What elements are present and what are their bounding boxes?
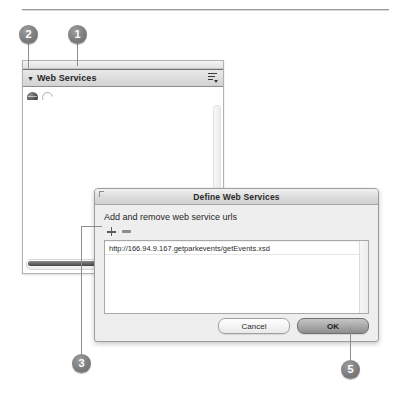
dialog-instruction-label: Add and remove web service urls bbox=[104, 212, 369, 222]
cancel-button[interactable]: Cancel bbox=[218, 318, 290, 334]
define-web-services-dialog: Define Web Services Add and remove web s… bbox=[94, 188, 379, 342]
callout-badge-1: 1 bbox=[68, 25, 87, 44]
remove-url-button[interactable] bbox=[122, 230, 131, 233]
dialog-button-row: Cancel OK bbox=[218, 318, 369, 334]
resize-corner-icon bbox=[99, 191, 104, 197]
callout-badge-3: 3 bbox=[72, 354, 91, 373]
callout-2-leader bbox=[28, 44, 29, 68]
callout-badge-5: 5 bbox=[341, 360, 360, 379]
ok-button[interactable]: OK bbox=[297, 318, 369, 334]
scrollbar-thumb[interactable] bbox=[28, 261, 98, 266]
disclosure-triangle-icon[interactable]: ▼ bbox=[27, 75, 34, 82]
header-rule bbox=[22, 9, 389, 11]
panel-menu-icon[interactable] bbox=[208, 73, 218, 82]
callout-3-leader-vertical bbox=[81, 226, 82, 354]
figure-canvas: 2 1 3 5 ▼ Web Services Define Web bbox=[0, 0, 405, 403]
dialog-title-bar[interactable]: Define Web Services bbox=[95, 189, 378, 205]
list-item[interactable]: http://166.94.9.167.getparkevents/getEve… bbox=[105, 241, 368, 255]
chevron-down-icon bbox=[214, 80, 218, 83]
panel-grip[interactable] bbox=[23, 61, 223, 69]
callout-badge-2: 2 bbox=[19, 25, 38, 44]
callout-3-leader-horizontal bbox=[81, 226, 102, 227]
dialog-content: Add and remove web service urls http://1… bbox=[95, 205, 378, 314]
add-url-button[interactable] bbox=[107, 227, 116, 236]
callout-1-leader bbox=[77, 44, 78, 66]
panel-tab-bar[interactable]: ▼ Web Services bbox=[23, 69, 223, 87]
add-remove-controls bbox=[104, 227, 369, 236]
url-list[interactable]: http://166.94.9.167.getparkevents/getEve… bbox=[104, 240, 369, 314]
panel-title: Web Services bbox=[37, 73, 97, 83]
dialog-title: Define Web Services bbox=[193, 192, 279, 202]
callout-5-leader bbox=[350, 327, 351, 360]
url-list-scrollbar[interactable] bbox=[359, 241, 368, 313]
